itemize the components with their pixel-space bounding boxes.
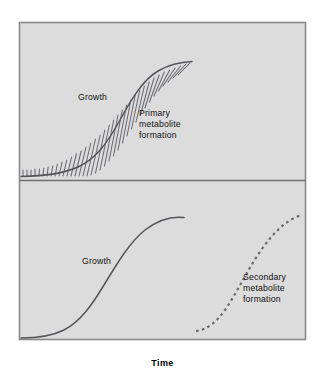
growth-label-top: Growth bbox=[78, 92, 107, 103]
x-axis-title: Time bbox=[0, 358, 325, 368]
primary-metabolite-label: Primary metabolite formation bbox=[139, 108, 181, 142]
secondary-metabolite-label: Secondary metabolite formation bbox=[243, 272, 286, 306]
metabolite-growth-figure: Growth Primary metabolite formation Grow… bbox=[0, 0, 325, 384]
growth-label-bottom: Growth bbox=[82, 256, 111, 267]
figure-canvas bbox=[0, 0, 325, 384]
